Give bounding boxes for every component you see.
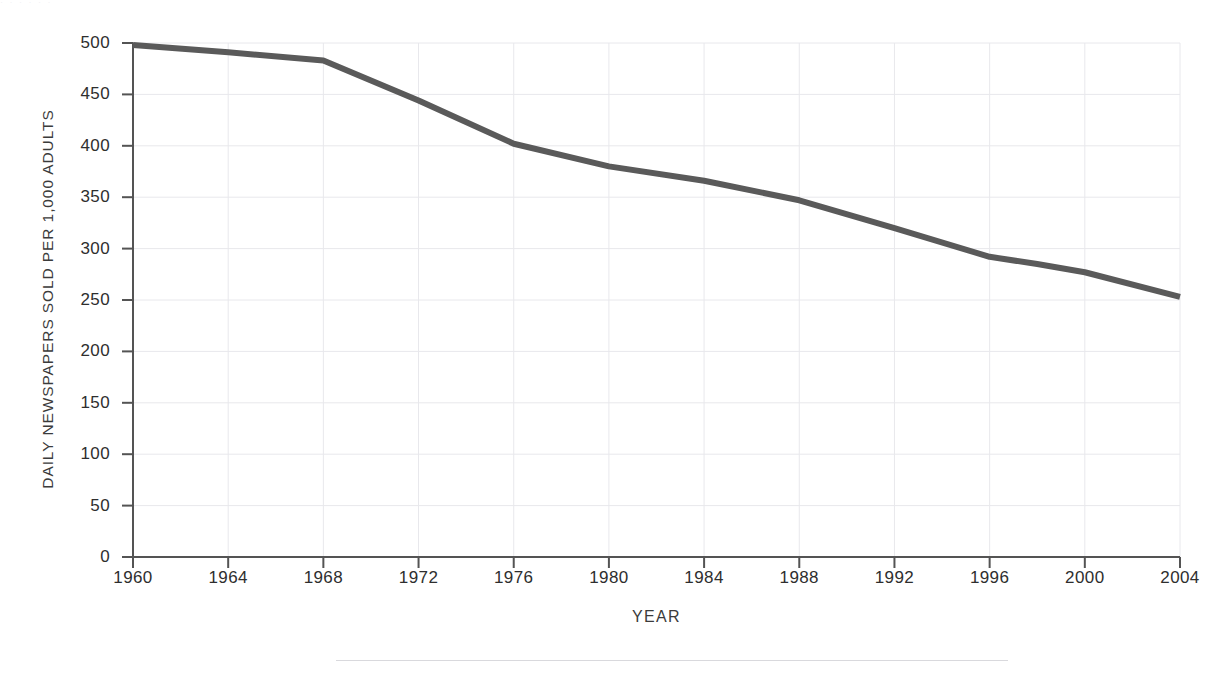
x-tick-label: 1988 xyxy=(754,568,844,588)
x-tick-label: 1960 xyxy=(88,568,178,588)
x-tick-label: 2000 xyxy=(1040,568,1130,588)
newspaper-circulation-line-chart: · · · · · · DAILY NEWSPAPERS SOLD PER 1,… xyxy=(0,0,1227,675)
bottom-rule xyxy=(336,660,1008,661)
x-tick-label: 1984 xyxy=(659,568,749,588)
x-tick-label: 1996 xyxy=(945,568,1035,588)
x-tick-label: 1992 xyxy=(849,568,939,588)
x-tick-label: 1980 xyxy=(564,568,654,588)
x-tick-label: 2004 xyxy=(1135,568,1225,588)
x-tick-label: 1972 xyxy=(374,568,464,588)
x-tick-label: 1968 xyxy=(278,568,368,588)
x-tick-label: 1964 xyxy=(183,568,273,588)
x-axis-tick-labels: 1960196419681972197619801984198819921996… xyxy=(0,0,1227,675)
x-tick-label: 1976 xyxy=(469,568,559,588)
